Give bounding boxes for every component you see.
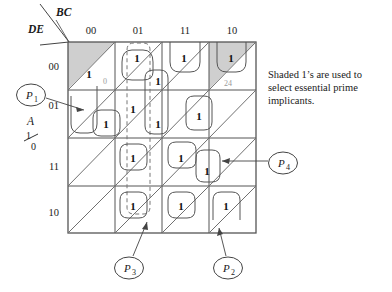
row-variable-label: DE [27, 23, 44, 35]
caption-line-1: Shaded 1’s are used to [268, 68, 388, 81]
one-c1r0-upper: 1 [134, 52, 140, 64]
one-c2r2-upper: 1 [178, 152, 184, 164]
one-c1r1-lower: 1 [155, 118, 161, 130]
one-c1r0-lower: 1 [155, 75, 161, 87]
callout-label-p2: P [222, 262, 230, 274]
caption-line-3: implicants. [268, 94, 388, 107]
row-header-0: 00 [49, 61, 60, 72]
one-c1r2-upper: 1 [130, 152, 136, 164]
callout-label-p1: P [25, 89, 33, 101]
cell-split-value-bottom: 0 [31, 141, 36, 152]
row-header-3: 10 [49, 207, 60, 218]
one-c2r1-lower: 1 [196, 110, 202, 122]
callout-p3: P 3 [115, 222, 149, 279]
callout-label-p4: P [277, 157, 285, 169]
one-c1r1-upper: 1 [130, 103, 136, 115]
one-c2r0-upper: 1 [181, 52, 187, 64]
kmap-figure: BC DE A 1 0 00 01 11 10 00 01 11 10 [0, 0, 392, 292]
one-c3r3-upper: 1 [223, 200, 229, 212]
column-header-0: 00 [86, 25, 97, 36]
callout-p2: P 2 [214, 228, 243, 279]
callout-subscript-p3: 3 [132, 268, 136, 277]
one-c3r0-upper: 1 [228, 52, 234, 64]
callout-subscript-p4: 4 [286, 163, 290, 172]
one-c2r3-upper: 1 [178, 200, 184, 212]
column-header-3: 10 [227, 25, 238, 36]
column-variable-label: BC [55, 6, 72, 18]
caption-note: Shaded 1’s are used to select essential … [268, 68, 388, 107]
group-outline-p4 [168, 142, 220, 182]
callout-arrow-p3 [142, 222, 148, 230]
callout-arrow-p2 [217, 228, 223, 236]
kmap-diagram: BC DE A 1 0 00 01 11 10 00 01 11 10 [0, 0, 392, 292]
column-header-1: 01 [133, 25, 144, 36]
caption-line-2: select essential prime [268, 81, 388, 94]
callout-subscript-p1: 1 [34, 95, 38, 104]
minterm-label-24: 24 [224, 79, 232, 88]
one-c0r0-upper: 1 [86, 68, 92, 80]
callout-p4: P 4 [222, 152, 298, 174]
minterm-label-0: 0 [103, 77, 107, 86]
column-header-2: 11 [180, 25, 190, 36]
callout-label-p3: P [123, 262, 131, 274]
one-c1r3-upper: 1 [130, 200, 136, 212]
cell-split-variable-label: A [26, 115, 35, 127]
one-c0r1-lower: 1 [103, 118, 109, 130]
one-c2r2-lower: 1 [204, 165, 210, 177]
row-header-2: 11 [49, 161, 59, 172]
callout-subscript-p2: 2 [231, 268, 235, 277]
group-outline-p3 [127, 43, 150, 214]
callout-arrow-p4 [222, 158, 230, 164]
